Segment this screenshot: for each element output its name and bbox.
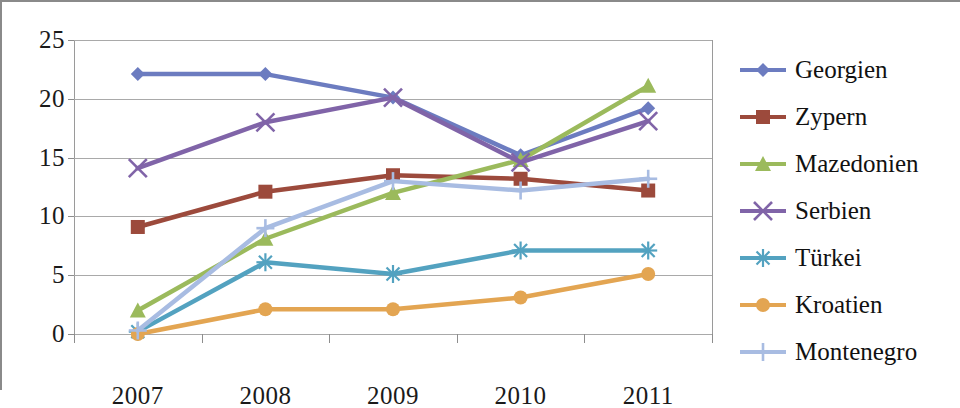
gridline-0 <box>74 334 712 335</box>
x-marker-icon <box>738 198 788 224</box>
diamond-marker-icon <box>738 57 788 83</box>
y-axis-label: 10 <box>39 202 65 230</box>
legend-item-label: Kroatien <box>795 292 882 317</box>
data-point-marker <box>131 67 145 81</box>
triangle-marker-icon <box>738 151 788 177</box>
legend-item-mazedonien[interactable]: Mazedonien <box>738 140 960 187</box>
x-axis-label: 2009 <box>367 382 419 408</box>
legend-item-label: Georgien <box>795 57 888 82</box>
data-point-marker <box>384 265 402 283</box>
legend-item-kroatien[interactable]: Kroatien <box>738 281 960 328</box>
legend-item-label: Türkei <box>795 245 862 270</box>
data-point-marker <box>512 242 530 260</box>
legend-item-label: Montenegro <box>795 339 917 364</box>
legend-item-label: Zypern <box>795 104 867 129</box>
asterisk-marker-icon <box>738 245 788 271</box>
plot-area: 0510152025 20072008200920102011 <box>74 40 712 334</box>
y-axis-label: 20 <box>39 85 65 113</box>
x-axis-label: 2008 <box>239 382 291 408</box>
y-axis-label: 5 <box>52 261 65 289</box>
x-tick <box>202 334 203 343</box>
y-axis-label: 0 <box>52 320 65 348</box>
data-point-marker <box>640 78 656 93</box>
data-point-marker <box>514 291 528 305</box>
plus-marker-icon <box>738 339 788 365</box>
data-point-marker <box>130 302 146 317</box>
plot-axis-right <box>712 40 713 334</box>
x-tick <box>457 334 458 343</box>
data-point-marker <box>639 242 657 260</box>
x-axis-label: 2011 <box>623 382 674 408</box>
legend-item-serbien[interactable]: Serbien <box>738 187 960 234</box>
data-point-marker <box>641 101 655 115</box>
series-line <box>138 74 648 155</box>
series-layer <box>74 40 712 334</box>
x-tick <box>329 334 330 343</box>
legend-item-zypern[interactable]: Zypern <box>738 93 960 140</box>
data-point-marker <box>258 67 272 81</box>
x-tick <box>584 334 585 343</box>
chart-legend: GeorgienZypernMazedonienSerbienTürkeiKro… <box>738 46 960 375</box>
data-point-marker <box>258 185 272 199</box>
square-marker-icon <box>738 104 788 130</box>
x-axis-label: 2007 <box>112 382 164 408</box>
circle-marker-icon <box>738 292 788 318</box>
x-tick <box>74 334 75 343</box>
data-point-marker <box>256 253 274 271</box>
data-point-marker <box>386 302 400 316</box>
y-axis-label: 15 <box>39 144 65 172</box>
legend-item-trkei[interactable]: Türkei <box>738 234 960 281</box>
data-point-marker <box>258 302 272 316</box>
x-axis-label: 2010 <box>495 382 547 408</box>
data-point-marker <box>641 267 655 281</box>
y-axis-label: 25 <box>39 26 65 54</box>
data-point-marker <box>131 220 145 234</box>
legend-item-label: Serbien <box>795 198 871 223</box>
legend-item-label: Mazedonien <box>795 151 919 176</box>
x-tick <box>712 334 713 343</box>
legend-item-georgien[interactable]: Georgien <box>738 46 960 93</box>
legend-item-montenegro[interactable]: Montenegro <box>738 328 960 375</box>
